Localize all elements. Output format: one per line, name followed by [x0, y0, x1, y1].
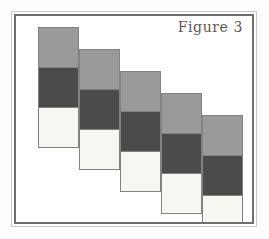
- figure-root: Figure 3: [0, 0, 269, 239]
- cell-3-bottom: [120, 151, 161, 192]
- cell-4-middle: [161, 133, 202, 174]
- cell-4-top: [161, 93, 202, 134]
- staircase-column-5: [202, 115, 243, 222]
- cell-3-middle: [120, 111, 161, 152]
- cell-5-top: [202, 115, 243, 156]
- cell-5-bottom: [202, 195, 243, 222]
- staircase-column-4: [161, 93, 202, 214]
- staircase-column-1: [38, 27, 79, 148]
- cell-1-top: [38, 27, 79, 68]
- figure-caption: Figure 3: [178, 19, 243, 35]
- cell-1-bottom: [38, 107, 79, 148]
- cell-5-middle: [202, 155, 243, 196]
- cell-1-middle: [38, 67, 79, 108]
- staircase-column-2: [79, 49, 120, 170]
- staircase-column-3: [120, 71, 161, 192]
- cell-2-middle: [79, 89, 120, 130]
- figure-plot-area: [16, 16, 252, 222]
- cell-2-bottom: [79, 129, 120, 170]
- cell-2-top: [79, 49, 120, 90]
- cell-4-bottom: [161, 173, 202, 214]
- cell-3-top: [120, 71, 161, 112]
